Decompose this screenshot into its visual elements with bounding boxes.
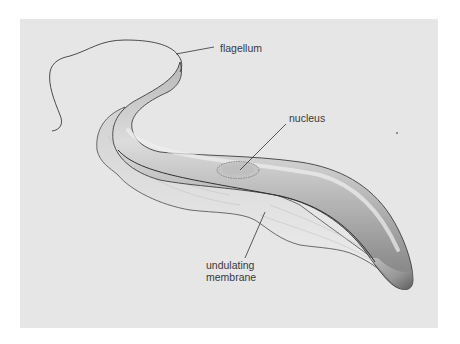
label-flagellum: flagellum [220, 42, 262, 54]
label-membrane-line2: membrane [206, 271, 256, 283]
label-undulating-membrane: undulating membrane [206, 259, 256, 283]
cell-body [113, 62, 413, 289]
label-membrane-line1: undulating [206, 259, 256, 271]
flagellum-leader [176, 47, 214, 54]
label-nucleus: nucleus [289, 112, 325, 124]
